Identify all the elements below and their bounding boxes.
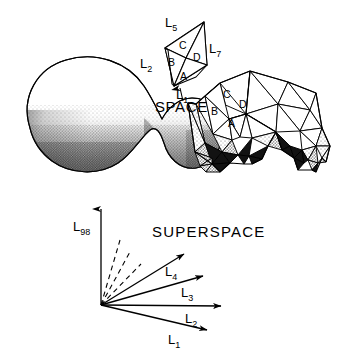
polygon-face-label-D: D bbox=[193, 52, 201, 63]
mesh-face-label-A: A bbox=[228, 118, 235, 129]
superspace-vector-label-L4: L4 bbox=[165, 265, 177, 282]
superspace-vector-label-L1: L1 bbox=[168, 333, 180, 350]
superspace-title: SUPERSPACE bbox=[152, 224, 265, 239]
polygon-face-label-A: A bbox=[180, 71, 187, 82]
polygon-edge-label-L7: L7 bbox=[209, 42, 221, 59]
triangulated-arch-mesh bbox=[188, 71, 330, 172]
mesh-face-label-B: B bbox=[211, 106, 218, 117]
polygon-face-label-B: B bbox=[168, 57, 175, 68]
superspace-axis-label-L98: L98 bbox=[73, 220, 90, 237]
superspace-axis-label-L98-sub: 98 bbox=[80, 227, 90, 237]
mesh-face-label-D: D bbox=[239, 99, 247, 110]
vector-L2 bbox=[101, 305, 221, 306]
polygon-edge-label-L2: L2 bbox=[140, 57, 152, 74]
polygon-edge-label-L5-sub: 5 bbox=[172, 23, 177, 33]
polygon-edge-label-L5: L5 bbox=[165, 16, 177, 33]
mesh-face-label-C: C bbox=[223, 89, 231, 100]
superspace-vector-label-L3-sub: 3 bbox=[188, 293, 193, 303]
polygon-edge-label-L7-sub: 7 bbox=[216, 49, 221, 59]
space-title: SPACE bbox=[155, 99, 208, 114]
superspace-vector-label-L1-sub: 1 bbox=[175, 340, 180, 350]
superspace-vector-label-L3: L3 bbox=[181, 286, 193, 303]
superspace-vector-label-L4-sub: 4 bbox=[172, 272, 177, 282]
figure-space-superspace: L5 L7 L2 L1 C D B A SPACE C D B A L98 SU… bbox=[0, 0, 343, 357]
figure-canvas bbox=[0, 0, 343, 357]
polygon-face-label-C: C bbox=[179, 40, 187, 51]
superspace-vector-label-L2-sub: 2 bbox=[192, 319, 197, 329]
polygon-edge-label-L2-sub: 2 bbox=[147, 64, 152, 74]
superspace-vector-label-L2: L2 bbox=[185, 312, 197, 329]
